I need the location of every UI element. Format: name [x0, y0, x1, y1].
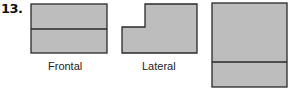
orthographic-views — [0, 0, 290, 94]
third-view — [212, 3, 287, 87]
frontal-view — [31, 4, 107, 53]
frontal-label: Frontal — [48, 60, 82, 72]
lateral-label: Lateral — [142, 60, 176, 72]
lateral-view — [122, 4, 197, 53]
